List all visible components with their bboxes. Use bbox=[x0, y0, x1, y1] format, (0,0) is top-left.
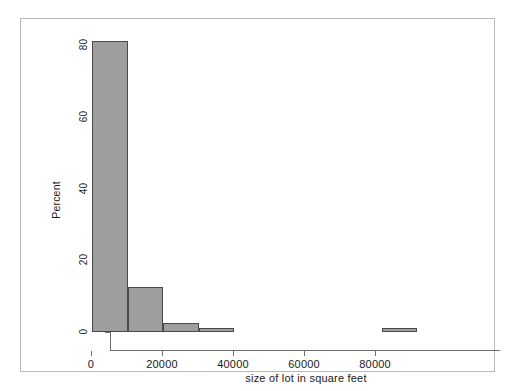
figure: 020406080020000400006000080000 Percent s… bbox=[0, 0, 514, 391]
y-tick-label: 20 bbox=[78, 240, 89, 280]
y-tick-label: 40 bbox=[78, 168, 89, 208]
x-tick-label: 60000 bbox=[269, 358, 339, 370]
x-tick bbox=[233, 351, 234, 356]
y-tick-label: 80 bbox=[78, 25, 89, 65]
figure-frame: 020406080020000400006000080000 Percent s… bbox=[20, 18, 495, 372]
histogram-bar bbox=[199, 328, 235, 332]
x-tick bbox=[375, 351, 376, 356]
x-tick-label: 20000 bbox=[127, 358, 197, 370]
histogram-bar bbox=[382, 328, 416, 332]
y-tick-label: 60 bbox=[78, 96, 89, 136]
y-tick bbox=[105, 332, 110, 333]
histogram-bar bbox=[128, 287, 164, 332]
histogram-bar bbox=[92, 41, 128, 332]
y-tick-label: 0 bbox=[78, 312, 89, 352]
x-tick bbox=[162, 351, 163, 356]
x-tick-label: 40000 bbox=[198, 358, 268, 370]
x-tick-label: 80000 bbox=[340, 358, 410, 370]
x-axis-label: size of lot in square feet bbox=[111, 372, 501, 384]
histogram-bar bbox=[163, 323, 199, 332]
x-tick bbox=[91, 351, 92, 356]
x-tick-label: 0 bbox=[56, 358, 126, 370]
y-axis-label: Percent bbox=[50, 160, 62, 240]
x-tick bbox=[304, 351, 305, 356]
